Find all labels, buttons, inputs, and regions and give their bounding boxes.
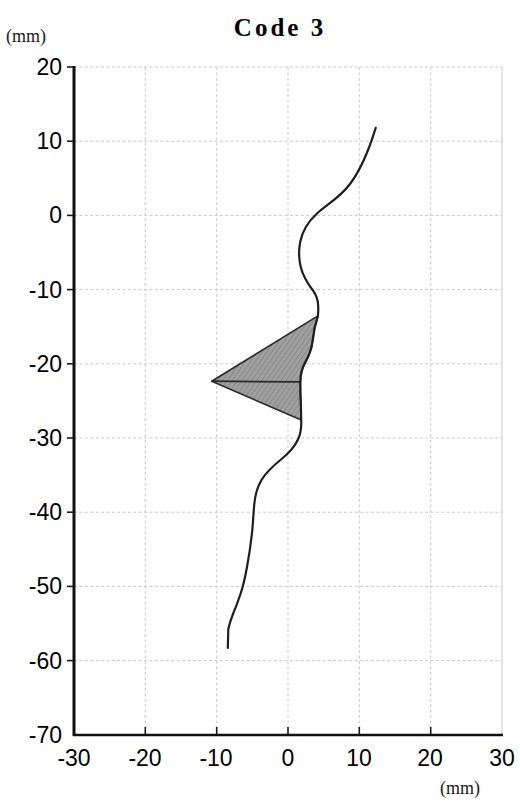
chart-container: Code 3 (mm) (mm) 20 10 0 -10 -20 -30 -40… <box>0 0 520 809</box>
triangle-median-line <box>212 381 301 382</box>
plot-svg <box>0 0 520 809</box>
axis-ticks-group <box>67 67 431 735</box>
